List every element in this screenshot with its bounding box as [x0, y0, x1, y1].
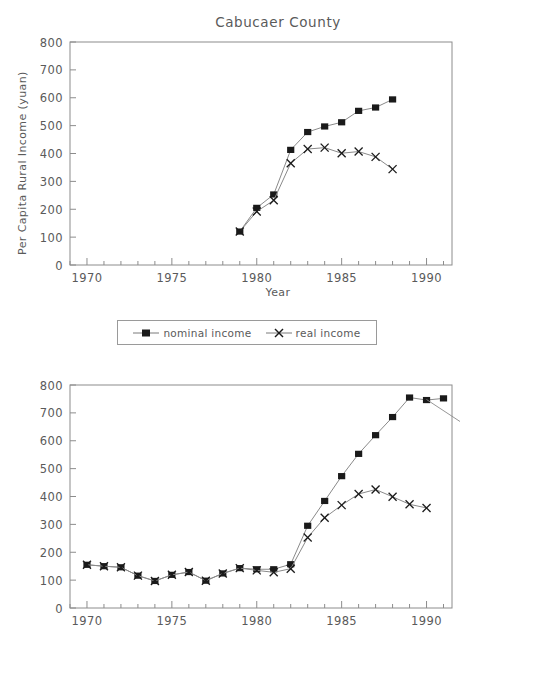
- legend-entry-real-income-top: real income: [266, 327, 361, 339]
- svg-text:1990: 1990: [411, 614, 442, 628]
- cross-marker-icon: [266, 327, 292, 339]
- svg-text:1975: 1975: [156, 614, 187, 628]
- svg-text:400: 400: [40, 147, 63, 161]
- svg-text:500: 500: [40, 462, 63, 476]
- svg-text:800: 800: [40, 379, 63, 393]
- svg-text:700: 700: [40, 63, 63, 77]
- plot-area-bottom: 0100200300400500600700800197019751980198…: [0, 350, 556, 698]
- svg-text:600: 600: [40, 434, 63, 448]
- svg-text:1980: 1980: [241, 614, 272, 628]
- y-axis-label-top: Per Capita Rural Income (yuan): [16, 71, 29, 255]
- svg-text:1975: 1975: [156, 271, 187, 285]
- svg-text:1985: 1985: [326, 271, 357, 285]
- svg-text:300: 300: [40, 175, 63, 189]
- svg-text:1970: 1970: [72, 271, 103, 285]
- svg-text:200: 200: [40, 546, 63, 560]
- x-axis-label-top: Year: [0, 286, 556, 299]
- svg-text:600: 600: [40, 91, 63, 105]
- figure-cabucaer-county: Cabucaer County 010020030040050060070080…: [0, 0, 556, 350]
- svg-text:1985: 1985: [326, 614, 357, 628]
- svg-text:300: 300: [40, 518, 63, 532]
- svg-text:0: 0: [55, 602, 63, 616]
- svg-text:700: 700: [40, 406, 63, 420]
- svg-text:1990: 1990: [411, 271, 442, 285]
- svg-text:500: 500: [40, 119, 63, 133]
- svg-text:200: 200: [40, 203, 63, 217]
- legend-top: nominal income real income: [117, 320, 377, 345]
- svg-text:800: 800: [40, 36, 63, 50]
- legend-label-nominal-income-top: nominal income: [163, 327, 251, 339]
- svg-text:100: 100: [40, 231, 63, 245]
- svg-text:1980: 1980: [241, 271, 272, 285]
- svg-text:100: 100: [40, 574, 63, 588]
- svg-text:0: 0: [55, 259, 63, 273]
- svg-text:1970: 1970: [72, 614, 103, 628]
- figure-hebukesaier-county: Hebukesaier County 010020030040050060070…: [0, 350, 556, 698]
- legend-entry-nominal-income-top: nominal income: [133, 327, 251, 339]
- square-marker-icon: [133, 327, 159, 339]
- svg-text:400: 400: [40, 490, 63, 504]
- legend-label-real-income-top: real income: [296, 327, 361, 339]
